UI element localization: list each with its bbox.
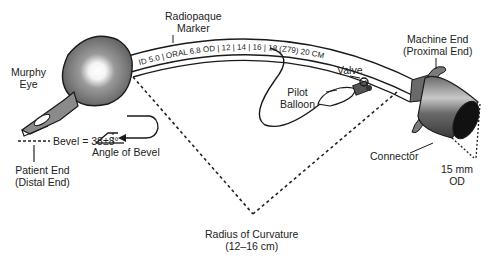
label-radius-of-curvature: Radius of Curvature (12–16 cm): [205, 228, 298, 252]
label-valve: Valve: [337, 64, 363, 76]
connector: [410, 67, 484, 143]
label-line: 15 mm: [441, 163, 473, 175]
label-line: Murphy: [11, 66, 46, 78]
label-line: Balloon: [280, 98, 315, 110]
label-radiopaque-marker: Radiopaque Marker: [165, 10, 222, 34]
label-line: Radiopaque: [165, 10, 222, 22]
radius-of-curvature-lines: [133, 77, 397, 214]
label-line: Machine End: [403, 33, 472, 45]
label-line: OD: [441, 175, 473, 187]
label-line: (12–16 cm): [205, 240, 298, 252]
label-connector: Connector: [370, 150, 418, 162]
label-line: Radius of Curvature: [205, 228, 298, 240]
label-line: Pilot: [280, 86, 315, 98]
label-line: Eye: [11, 78, 46, 90]
label-15mm-od: 15 mm OD: [441, 163, 473, 187]
label-murphy-eye: Murphy Eye: [11, 66, 46, 90]
label-pilot-balloon: Pilot Balloon: [280, 86, 315, 110]
label-line: Marker: [165, 22, 222, 34]
label-angle-of-bevel: Angle of Bevel: [92, 146, 160, 158]
label-patient-end: Patient End (Distal End): [15, 164, 70, 188]
label-line: (Proximal End): [403, 45, 472, 57]
distal-tip: [22, 92, 78, 136]
label-line: Patient End: [15, 164, 70, 176]
label-line: (Distal End): [15, 176, 70, 188]
label-machine-end: Machine End (Proximal End): [403, 33, 472, 57]
